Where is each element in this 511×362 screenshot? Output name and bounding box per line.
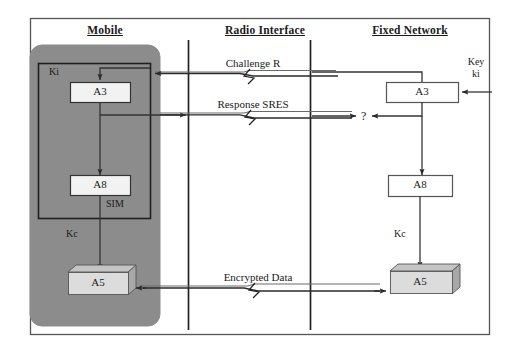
mobile-a5-label: A5 bbox=[91, 276, 104, 288]
network-a5-label: A5 bbox=[413, 275, 426, 287]
mobile-ki-label: Ki bbox=[49, 66, 59, 77]
column-header-mobile: Mobile bbox=[87, 24, 123, 36]
mobile-a8-label: A8 bbox=[93, 178, 106, 190]
column-header-fixed-network: Fixed Network bbox=[372, 24, 448, 36]
message-label-encrypted-data: Encrypted Data bbox=[224, 271, 293, 283]
diagram-canvas: Mobile Radio Interface Fixed Network Ki … bbox=[0, 0, 511, 362]
network-key-label-line1: Key bbox=[468, 56, 485, 68]
mobile-a5-shadow-top bbox=[68, 265, 136, 272]
network-key-label-line2: ki bbox=[468, 68, 485, 80]
comparator-question-mark: ? bbox=[361, 109, 366, 124]
network-a3-label: A3 bbox=[415, 85, 428, 97]
message-label-response-sres: Response SRES bbox=[217, 98, 288, 110]
network-kc-label: Kc bbox=[394, 228, 406, 239]
network-a5-shadow-top bbox=[390, 264, 460, 271]
mobile-kc-label: Kc bbox=[66, 228, 78, 239]
mobile-a3-label: A3 bbox=[93, 85, 106, 97]
column-header-radio-interface: Radio Interface bbox=[225, 24, 305, 36]
sim-label: SIM bbox=[106, 198, 124, 209]
message-label-challenge-r: Challenge R bbox=[226, 57, 281, 69]
network-a8-label: A8 bbox=[413, 178, 426, 190]
gsm-authentication-diagram bbox=[0, 0, 511, 362]
